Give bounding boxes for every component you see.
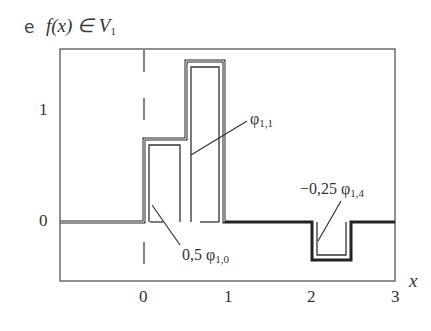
leader-phi14 — [318, 201, 341, 241]
series-phi10 — [149, 145, 180, 222]
annotation-phi14: −0,25 φ1,4 — [300, 180, 364, 199]
series-phi14 — [317, 222, 346, 255]
y-tick-0: 0 — [39, 211, 48, 231]
leader-phi10 — [152, 205, 180, 245]
x-tick-0: 0 — [139, 287, 148, 307]
x-tick-3: 3 — [391, 287, 400, 307]
x-axis-label: x — [409, 270, 417, 292]
series-phi11 — [191, 67, 219, 222]
figure-prefix: e — [24, 17, 34, 37]
y-tick-1: 1 — [39, 100, 48, 120]
annotation-phi11: φ1,1 — [250, 110, 273, 129]
x-tick-2: 2 — [307, 287, 316, 307]
chart-title: f(x) ∈ V1 — [46, 14, 116, 37]
series-f-inner-gap — [60, 61, 224, 222]
series-f-thick — [60, 61, 395, 260]
plot-area — [0, 0, 431, 331]
x-tick-1: 1 — [224, 287, 233, 307]
annotation-phi10: 0,5 φ1,0 — [182, 246, 229, 265]
